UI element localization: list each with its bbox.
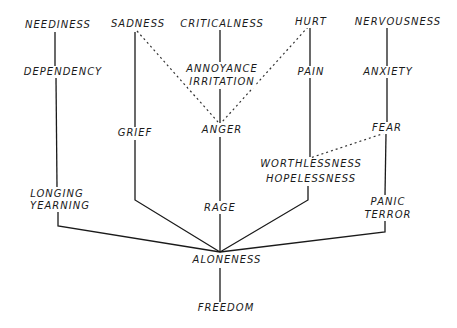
node-worthlessness: WORTHLESSNESS [259, 158, 363, 170]
node-panic: PANIC [370, 196, 407, 208]
node-anxiety: ANXIETY [362, 66, 414, 78]
edge-dependency-longing [56, 78, 57, 187]
edge-fear-panic [385, 134, 386, 195]
node-criticalness: CRITICALNESS [179, 18, 264, 30]
diagram-connectors [0, 0, 457, 328]
node-dependency: DEPENDENCY [23, 66, 103, 78]
edge-grief-aloneness [135, 140, 220, 252]
node-terror: TERROR [363, 209, 412, 221]
node-irritation: IRRITATION [188, 76, 256, 88]
node-grief: GRIEF [117, 127, 154, 139]
emotion-tree-diagram: NEEDINESS SADNESS CRITICALNESS HURT NERV… [0, 0, 457, 328]
node-pain: PAIN [297, 66, 326, 78]
node-hurt: HURT [294, 16, 328, 28]
dashed-edge-fear-worthlessness [310, 133, 385, 158]
node-aloneness: ALONENESS [192, 254, 263, 266]
node-annoyance: ANNOYANCE [185, 63, 259, 75]
edge-yearning-aloneness [58, 212, 220, 252]
node-fear: FEAR [371, 122, 403, 134]
node-sadness: SADNESS [110, 18, 166, 30]
node-longing: LONGING [29, 188, 85, 200]
edge-hopelessness-aloneness [220, 186, 308, 252]
edge-terror-aloneness [220, 220, 385, 252]
node-hopelessness: HOPELESSNESS [265, 173, 357, 185]
node-freedom: FREEDOM [197, 302, 256, 314]
node-anger: ANGER [201, 124, 243, 136]
node-yearning: YEARNING [29, 200, 91, 212]
node-rage: RAGE [203, 202, 237, 214]
node-nervousness: NERVOUSNESS [354, 16, 442, 28]
node-neediness: NEEDINESS [24, 19, 92, 31]
